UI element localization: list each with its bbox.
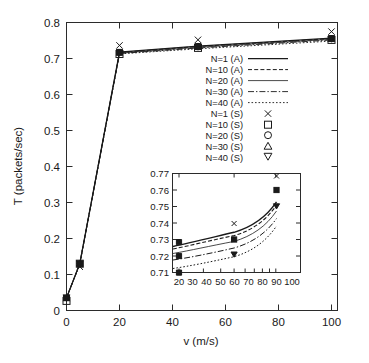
main-ytick-label-8: 0.8 xyxy=(44,17,60,29)
inset-ytick-label-3: 0.74 xyxy=(150,218,169,229)
x-axis-title: v (m/s) xyxy=(183,335,218,347)
main-xtick-label-1: 20 xyxy=(113,316,126,328)
legend-label-n40-analysis: N=40 (A) xyxy=(206,98,243,108)
chart-svg: 0 0.1 0.2 0.3 0.4 0.5 0.6 0.7 0.8 0 20 4… xyxy=(0,0,369,363)
inset-plot: 0.71 0.72 0.73 0.74 0.75 0.76 0.77 20 30… xyxy=(150,168,301,287)
inset-xtick-label-0: 20 xyxy=(174,276,184,287)
main-xtick-label-2: 40 xyxy=(166,316,179,328)
main-xtick-label-5: 100 xyxy=(322,316,341,328)
inset-marker-v20-0.71 xyxy=(176,270,181,275)
inset-marker-v20-0.72 xyxy=(176,253,181,258)
inset-marker-square-v100 xyxy=(274,187,279,192)
legend-label-n20-sim: N=20 (S) xyxy=(206,131,243,141)
inset-xtick-label-5: 70 xyxy=(243,276,253,287)
main-ytick-label-5: 0.5 xyxy=(44,125,60,137)
inset-xtick-label-7: 90 xyxy=(271,276,281,287)
main-ytick-label-2: 0.2 xyxy=(44,233,60,245)
legend-label-n40-sim: N=40 (S) xyxy=(206,153,243,163)
legend-label-n20-analysis: N=20 (A) xyxy=(206,76,243,86)
inset-ytick-label-6: 0.77 xyxy=(150,168,169,179)
legend-label-n1-analysis: N=1 (A) xyxy=(211,54,243,64)
inset-xtick-label-6: 80 xyxy=(257,276,267,287)
main-ytick-label-1: 0.1 xyxy=(44,269,60,281)
inset-xtick-label-3: 50 xyxy=(215,276,225,287)
legend-label-n10-sim: N=10 (S) xyxy=(206,120,243,130)
inset-marker-square-v50 xyxy=(232,237,237,242)
main-ytick-label-3: 0.3 xyxy=(44,197,60,209)
y-axis-title: T (packets/sec) xyxy=(12,127,24,206)
main-xtick-label-0: 0 xyxy=(63,316,69,328)
inset-xtick-label-1: 30 xyxy=(187,276,197,287)
inset-background xyxy=(172,173,301,273)
legend-label-n30-analysis: N=30 (A) xyxy=(206,87,243,97)
inset-marker-v20-0.73 xyxy=(176,240,181,245)
inset-ytick-label-0: 0.71 xyxy=(150,267,169,278)
main-ytick-label-6: 0.6 xyxy=(44,89,60,101)
chart-figure: 0 0.1 0.2 0.3 0.4 0.5 0.6 0.7 0.8 0 20 4… xyxy=(0,0,369,363)
inset-xtick-label-4: 60 xyxy=(229,276,239,287)
inset-xtick-label-2: 40 xyxy=(201,276,211,287)
inset-ytick-label-5: 0.76 xyxy=(150,185,169,196)
main-xtick-label-4: 80 xyxy=(272,316,285,328)
main-ytick-label-4: 0.4 xyxy=(44,161,61,173)
main-ytick-label-7: 0.7 xyxy=(44,53,60,65)
legend-label-n10-analysis: N=10 (A) xyxy=(206,65,243,75)
inset-ytick-label-1: 0.72 xyxy=(150,251,169,262)
legend-label-n30-sim: N=30 (S) xyxy=(206,142,243,152)
main-ytick-label-0: 0 xyxy=(54,305,60,317)
inset-ytick-label-2: 0.73 xyxy=(150,234,169,245)
inset-ytick-label-4: 0.75 xyxy=(150,201,169,212)
inset-xtick-label-8: 100 xyxy=(284,276,300,287)
main-xtick-label-3: 60 xyxy=(219,316,232,328)
legend-label-n1-sim: N=1 (S) xyxy=(211,109,243,119)
